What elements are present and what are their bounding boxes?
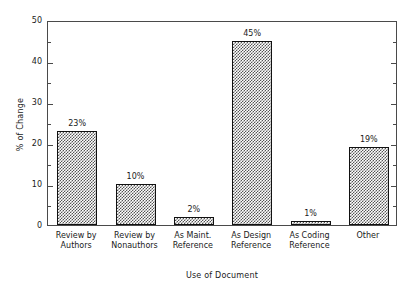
bar[interactable] — [116, 184, 156, 225]
bar[interactable] — [232, 41, 272, 226]
x-axis-category-line: Reference — [265, 241, 355, 251]
bar-slot: 23% — [57, 22, 97, 225]
bar-value-label: 10% — [102, 173, 170, 181]
y-axis-tick-label: 10 — [2, 181, 42, 189]
bar-value-label: 23% — [43, 120, 111, 128]
bar[interactable] — [291, 221, 331, 225]
bar-slot: 2% — [174, 22, 214, 225]
plot-area: 23%10%2%45%1%19% — [47, 21, 397, 226]
x-axis-title: Use of Document — [47, 271, 397, 280]
y-axis-tick-label: 0 — [2, 222, 42, 230]
y-axis-tick-label: 50 — [2, 17, 42, 25]
bar-chart-figure: % of Change 23%10%2%45%1%19% 01020304050… — [0, 0, 419, 295]
y-axis-tick-label: 40 — [2, 58, 42, 66]
bar-series: 23%10%2%45%1%19% — [48, 22, 396, 225]
bar-slot: 1% — [291, 22, 331, 225]
bar[interactable] — [349, 147, 389, 225]
x-axis-category-label: Other — [323, 231, 413, 241]
x-axis-category-line: Other — [356, 231, 379, 240]
bar-value-label: 1% — [277, 210, 345, 218]
bar-slot: 10% — [116, 22, 156, 225]
bar-slot: 45% — [232, 22, 272, 225]
bar-value-label: 45% — [218, 30, 286, 38]
bar-value-label: 2% — [160, 206, 228, 214]
y-axis-title: % of Change — [16, 65, 25, 185]
y-axis-tick-label: 30 — [2, 99, 42, 107]
bar[interactable] — [174, 217, 214, 225]
y-axis-tick-label: 20 — [2, 140, 42, 148]
bar-value-label: 19% — [335, 136, 403, 144]
bar-slot: 19% — [349, 22, 389, 225]
bar[interactable] — [57, 131, 97, 225]
